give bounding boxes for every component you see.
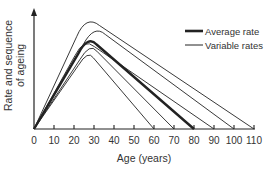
legend-label-average: Average rate: [205, 26, 259, 37]
legend-label-variable: Variable rates: [205, 40, 263, 51]
legend: Average rate Variable rates: [185, 26, 263, 51]
series-variable-rate-4: [34, 48, 174, 129]
x-tick-label: 60: [148, 135, 160, 146]
x-tick-label: 100: [226, 135, 243, 146]
x-tick-label: 40: [108, 135, 120, 146]
y-axis-arrow-icon: [31, 8, 37, 16]
x-tick-label: 30: [88, 135, 100, 146]
x-tick-label: 50: [128, 135, 140, 146]
x-tick-label: 110: [246, 135, 262, 146]
series-variable-rate-2: [34, 44, 214, 129]
y-axis-label-line-2: of ageing: [14, 44, 26, 87]
x-tick-label: 70: [168, 135, 180, 146]
series-variable-rate-0: [34, 22, 254, 129]
x-axis-label: Age (years): [117, 152, 171, 164]
x-ticks: 0102030405060708090100110: [31, 125, 262, 146]
x-tick-label: 90: [208, 135, 220, 146]
series-group: [34, 22, 254, 129]
series-variable-rate-5: [34, 55, 154, 129]
x-tick-label: 20: [68, 135, 80, 146]
x-tick-label: 10: [48, 135, 60, 146]
ageing-chart: 0102030405060708090100110 Age (years) Ra…: [0, 0, 267, 176]
x-tick-label: 0: [31, 135, 37, 146]
y-axis-label-line-1: Rate and sequence: [2, 20, 14, 111]
x-tick-label: 80: [188, 135, 200, 146]
